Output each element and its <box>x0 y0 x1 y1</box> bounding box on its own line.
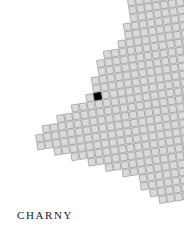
grid-cell[interactable] <box>105 163 113 171</box>
grid-cell[interactable] <box>125 136 133 144</box>
grid-cell[interactable] <box>134 37 142 45</box>
grid-cell[interactable] <box>104 156 112 164</box>
grid-cell[interactable] <box>128 103 136 111</box>
grid-cell[interactable] <box>149 84 157 92</box>
grid-cell[interactable] <box>87 101 95 109</box>
grid-cell-highlighted[interactable] <box>94 92 102 100</box>
grid-cell[interactable] <box>174 39 182 47</box>
grid-cell[interactable] <box>154 164 162 172</box>
grid-cell[interactable] <box>119 96 127 104</box>
grid-cell[interactable] <box>113 113 121 121</box>
grid-cell[interactable] <box>130 14 138 22</box>
grid-cell[interactable] <box>160 49 168 57</box>
grid-cell[interactable] <box>139 126 147 134</box>
grid-cell[interactable] <box>105 115 113 123</box>
grid-cell[interactable] <box>153 107 161 115</box>
grid-cell[interactable] <box>82 118 90 126</box>
grid-cell[interactable] <box>115 73 123 81</box>
grid-cell[interactable] <box>178 63 184 71</box>
grid-cell[interactable] <box>177 55 184 63</box>
grid-cell[interactable] <box>141 85 149 93</box>
grid-cell[interactable] <box>100 132 108 140</box>
grid-cell[interactable] <box>155 123 163 131</box>
grid-cell[interactable] <box>122 120 130 128</box>
grid-cell[interactable] <box>122 169 130 177</box>
grid-cell[interactable] <box>164 24 172 32</box>
grid-cell[interactable] <box>137 110 145 118</box>
grid-cell[interactable] <box>179 71 184 79</box>
grid-cell[interactable] <box>98 67 106 75</box>
grid-cell[interactable] <box>172 23 180 31</box>
grid-cell[interactable] <box>171 169 179 177</box>
grid-map-canvas[interactable] <box>0 0 184 205</box>
grid-cell[interactable] <box>168 153 176 161</box>
grid-cell[interactable] <box>127 152 135 160</box>
grid-cell[interactable] <box>115 121 123 129</box>
grid-cell[interactable] <box>162 114 170 122</box>
grid-cell[interactable] <box>156 74 164 82</box>
grid-cell[interactable] <box>178 111 184 119</box>
grid-cell[interactable] <box>166 89 174 97</box>
grid-cell[interactable] <box>79 151 87 159</box>
grid-cell[interactable] <box>144 52 152 60</box>
grid-cell[interactable] <box>129 160 137 168</box>
grid-cell[interactable] <box>163 170 171 178</box>
grid-cell[interactable] <box>139 174 147 182</box>
grid-cell[interactable] <box>154 10 162 18</box>
grid-cell[interactable] <box>95 100 103 108</box>
grid-cell[interactable] <box>123 23 131 31</box>
grid-cell[interactable] <box>154 66 162 74</box>
grid-cell[interactable] <box>138 118 146 126</box>
grid-cell[interactable] <box>148 76 156 84</box>
grid-cell[interactable] <box>138 166 146 174</box>
grid-cell[interactable] <box>126 39 134 47</box>
grid-cell[interactable] <box>169 161 177 169</box>
grid-cell[interactable] <box>147 68 155 76</box>
grid-cell[interactable] <box>124 128 132 136</box>
grid-cell[interactable] <box>111 49 119 57</box>
grid-cell[interactable] <box>163 17 171 25</box>
grid-cell[interactable] <box>168 48 176 56</box>
grid-cell[interactable] <box>79 103 87 111</box>
grid-cell[interactable] <box>159 98 167 106</box>
grid-cell[interactable] <box>129 6 137 14</box>
grid-cell[interactable] <box>135 0 143 5</box>
grid-cell[interactable] <box>177 6 184 14</box>
grid-cell[interactable] <box>124 79 132 87</box>
grid-cell[interactable] <box>149 189 157 197</box>
grid-cell[interactable] <box>139 20 147 28</box>
grid-cell[interactable] <box>66 121 74 129</box>
grid-cell[interactable] <box>92 84 100 92</box>
grid-cell[interactable] <box>123 71 131 79</box>
grid-cell[interactable] <box>128 54 136 62</box>
grid-cell[interactable] <box>145 60 153 68</box>
grid-cell[interactable] <box>117 137 125 145</box>
grid-cell[interactable] <box>142 93 150 101</box>
grid-cell[interactable] <box>171 121 179 129</box>
grid-cell[interactable] <box>160 155 168 163</box>
grid-cell[interactable] <box>60 138 68 146</box>
grid-cell[interactable] <box>127 0 135 6</box>
grid-cell[interactable] <box>97 59 105 67</box>
grid-cell[interactable] <box>80 111 88 119</box>
grid-cell[interactable] <box>174 88 182 96</box>
grid-cell[interactable] <box>173 31 181 39</box>
grid-cell[interactable] <box>129 111 137 119</box>
grid-cell[interactable] <box>143 0 151 3</box>
grid-cell[interactable] <box>167 97 175 105</box>
grid-cell[interactable] <box>156 26 164 34</box>
grid-cell[interactable] <box>91 125 99 133</box>
grid-cell[interactable] <box>169 56 177 64</box>
grid-cell[interactable] <box>142 141 150 149</box>
grid-cell[interactable] <box>120 56 128 64</box>
grid-cell[interactable] <box>51 131 59 139</box>
grid-cell[interactable] <box>132 78 140 86</box>
grid-cell[interactable] <box>130 119 138 127</box>
grid-cell[interactable] <box>171 15 179 23</box>
grid-cell[interactable] <box>149 35 157 43</box>
grid-cell[interactable] <box>169 7 177 15</box>
grid-cell[interactable] <box>71 153 79 161</box>
grid-cell[interactable] <box>101 140 109 148</box>
grid-cell[interactable] <box>106 66 114 74</box>
grid-cell[interactable] <box>107 74 115 82</box>
